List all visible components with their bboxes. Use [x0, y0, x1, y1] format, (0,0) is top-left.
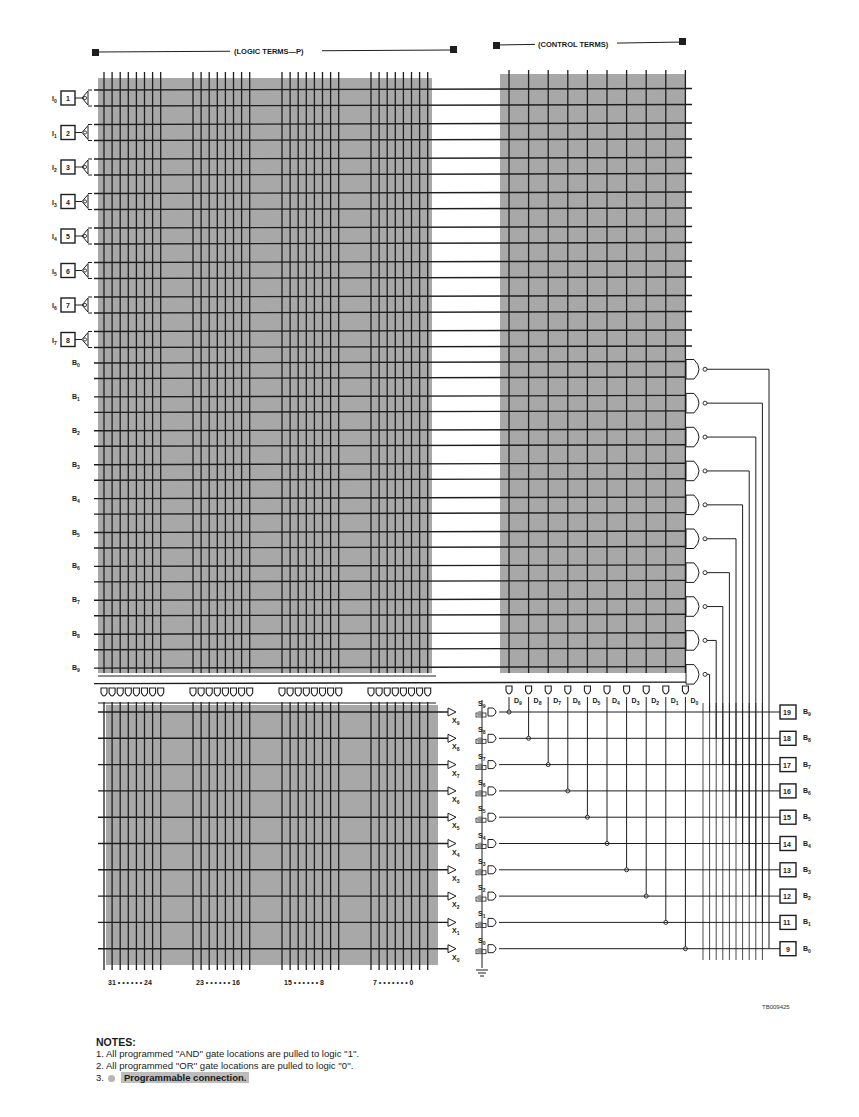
input-pin-number: 6	[66, 268, 70, 275]
control-term-label: D4	[612, 697, 620, 706]
input-pin-7: I67	[52, 297, 92, 313]
product-term-buffer-icon	[287, 688, 293, 696]
output-pin-number: 18	[783, 735, 791, 742]
nand-gate-icon	[686, 597, 699, 617]
product-term-buffer-icon	[336, 688, 342, 696]
product-term-group-label: 15 • • • • • • 8	[284, 979, 324, 986]
programmable-connection-dot-icon	[108, 1075, 115, 1082]
output-gate-icon	[488, 918, 496, 926]
feedback-label: B4	[72, 495, 80, 504]
product-term-buffer-icon	[400, 688, 406, 696]
product-term-buffer-icon	[133, 688, 139, 696]
control-term-label: D3	[632, 697, 640, 706]
nand-gate-icon	[686, 563, 699, 583]
output-pin-13: 13B3	[780, 863, 811, 877]
notes-section: NOTES: 1. All programmed ''AND'' gate lo…	[96, 1036, 359, 1084]
product-term-buffer-icon	[417, 688, 423, 696]
feedback-label: B2	[72, 427, 80, 436]
output-gate-icon	[488, 787, 496, 795]
product-term-buffer-icon	[214, 688, 220, 696]
output-pin-number: 14	[783, 841, 791, 848]
feedback-label: B0	[72, 359, 80, 368]
and-array	[94, 70, 692, 965]
control-terms-label: (CONTROL TERMS)	[538, 40, 609, 49]
feedback-rows: B0B1B2B3B4B5B6B7B8B9	[72, 359, 80, 673]
input-pin-5: I45	[52, 228, 92, 244]
product-term-buffer-icon	[392, 688, 398, 696]
or-x-label: X6	[452, 796, 460, 805]
product-term-buffer-icon	[117, 688, 123, 696]
or-buffer-icon	[448, 708, 456, 716]
input-label: I3	[52, 199, 57, 208]
product-term-buffer-icon	[142, 688, 148, 696]
output-label: B6	[803, 787, 811, 796]
input-pin-1: I01	[52, 90, 92, 106]
control-term-buffer-icon	[682, 686, 688, 694]
output-pin-19: 19B9	[780, 705, 811, 719]
output-pin-number: 12	[783, 893, 791, 900]
input-label: I4	[52, 233, 57, 242]
and-array-fill	[98, 78, 432, 673]
product-term-buffer-icon	[222, 688, 228, 696]
input-label: I6	[52, 302, 57, 311]
input-label: I7	[52, 337, 57, 346]
control-term-label: D5	[592, 697, 600, 706]
feedback-label: B3	[72, 461, 80, 470]
feedback-wire	[707, 403, 762, 922]
output-label: B8	[803, 734, 811, 743]
nand-gate-icon	[686, 495, 699, 514]
input-label: I0	[52, 95, 57, 104]
input-label: I5	[52, 268, 57, 277]
product-term-buffer-icon	[231, 688, 237, 696]
control-term-label: D9	[514, 697, 522, 706]
control-term-buffer-icon	[526, 686, 532, 694]
input-pin-8: I78	[52, 332, 92, 348]
input-pin-number: 2	[66, 130, 70, 137]
feedback-label: B1	[72, 393, 80, 402]
control-term-buffer-icon	[545, 686, 551, 694]
array-header: (LOGIC TERMS—P)(CONTROL TERMS)	[92, 38, 686, 56]
bracket-end-marker	[450, 46, 457, 53]
feedback-label: B8	[72, 630, 80, 639]
or-buffer-icon	[448, 734, 456, 742]
bracket-end-marker	[493, 42, 500, 49]
product-term-buffer-icon	[101, 688, 107, 696]
input-pin-4: I34	[52, 194, 92, 210]
product-term-buffer-icon	[384, 688, 390, 696]
output-pin-number: 15	[783, 814, 791, 821]
ground-icon	[476, 970, 488, 976]
feedback-wire	[707, 505, 743, 844]
or-array-fill	[106, 705, 438, 965]
output-pin-17: 17B7	[780, 758, 811, 772]
product-term-buffer-icon	[368, 688, 374, 696]
product-term-group-label: 31 • • • • • • 24	[108, 979, 152, 986]
output-label: B2	[803, 892, 811, 901]
or-x-label: X3	[452, 875, 460, 884]
pla-logic-diagram: (LOGIC TERMS—P)(CONTROL TERMS)I01I12I23I…	[0, 0, 859, 1117]
notes-title: NOTES:	[96, 1036, 359, 1048]
control-term-buffer-icon	[584, 686, 590, 694]
product-term-group-label: 23 • • • • • • 16	[196, 979, 240, 986]
product-term-buffer-icon	[311, 688, 317, 696]
note-3-text: Programmable connection.	[121, 1072, 249, 1083]
control-term-label: D0	[690, 697, 698, 706]
control-gates	[686, 360, 769, 949]
feedback-wire	[707, 573, 729, 791]
input-label: I1	[52, 130, 57, 139]
product-term-buffer-icon	[198, 688, 204, 696]
product-term-buffer-icon	[328, 688, 334, 696]
output-pin-12: 12B2	[780, 889, 811, 903]
input-pin-number: 4	[66, 199, 70, 206]
or-x-label: X5	[452, 822, 460, 831]
or-x-label: X8	[452, 743, 460, 752]
output-gate-icon	[488, 813, 496, 821]
output-label: B9	[803, 708, 811, 717]
logic-terms-label: (LOGIC TERMS—P)	[234, 47, 304, 56]
nand-gate-icon	[686, 360, 699, 380]
output-pin-15: 15B5	[780, 810, 811, 824]
product-term-buffer-icon	[247, 688, 253, 696]
nand-gate-icon	[686, 427, 699, 447]
output-gate-icon	[488, 945, 496, 953]
output-label: B0	[803, 945, 811, 954]
nand-gate-icon	[686, 665, 699, 685]
